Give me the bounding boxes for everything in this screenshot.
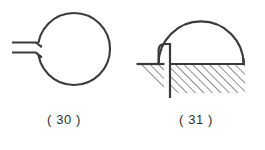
figure-31-caption: ( 31 ) — [132, 112, 260, 127]
figure-30-circle-outline — [38, 13, 110, 85]
figure-31-hatch-main — [168, 62, 248, 96]
figure-30-caption: ( 30 ) — [0, 112, 128, 127]
figure-drawing-canvas — [0, 0, 265, 150]
figure-plate: ( 30 ) ( 31 ) — [0, 0, 265, 150]
figure-31-dome-arc — [159, 21, 244, 64]
figure-31-hatch-left-wedge — [135, 62, 169, 96]
figure-31-group — [135, 21, 248, 98]
figure-30-group — [12, 13, 110, 85]
